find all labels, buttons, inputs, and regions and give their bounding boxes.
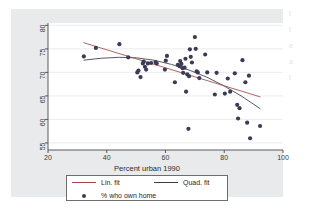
y-axis-tick-label: 80 — [39, 25, 46, 41]
y-axis-tick-label: 70 — [39, 72, 46, 88]
chart-figure-panel: 556065707580 20406080100 Percent urban 1… — [11, 9, 283, 197]
legend-entry-own-home: % who own home — [71, 189, 156, 202]
y-axis-tick-label: 60 — [39, 119, 46, 135]
y-axis-tick-label: 65 — [39, 95, 46, 111]
x-axis-title: Percent urban 1990 — [11, 164, 283, 173]
legend-key-quad-fit — [153, 176, 179, 189]
gridlines — [48, 25, 283, 143]
legend-entry-lin-fit: Lin. fit — [71, 176, 120, 189]
margin-bleed-line: t — [289, 22, 307, 38]
legend-line-swatch-quad-fit — [154, 182, 178, 183]
legend-label-quad-fit: Quad. fit — [179, 179, 209, 186]
legend-label-lin-fit: Lin. fit — [97, 179, 120, 186]
legend-marker-swatch-own-home — [82, 194, 86, 198]
legend-row-fits: Lin. fit Quad. fit — [67, 176, 227, 189]
chart-legend: Lin. fit Quad. fit % who own home — [66, 175, 228, 201]
legend-entry-quad-fit: Quad. fit — [153, 176, 209, 189]
legend-line-swatch-lin-fit — [72, 182, 96, 183]
x-axis-tick-label: 20 — [44, 154, 52, 161]
legend-key-lin-fit — [71, 176, 97, 189]
axis-ticks — [45, 25, 283, 153]
x-axis-tick-label: 60 — [162, 154, 170, 161]
linear-fit-line — [84, 43, 260, 97]
figure-page: 556065707580 20406080100 Percent urban 1… — [0, 0, 309, 211]
legend-label-own-home: % who own home — [97, 192, 156, 199]
y-axis-tick-label: 75 — [39, 48, 46, 64]
x-axis-tick-label: 100 — [277, 154, 289, 161]
legend-row-marker: % who own home — [67, 189, 227, 202]
legend-key-own-home — [71, 189, 97, 202]
margin-bleed-line: t — [289, 70, 307, 86]
margin-bleed-line: t — [289, 6, 307, 22]
axis-lines — [48, 23, 283, 150]
margin-bleed-line: a — [289, 54, 307, 70]
x-axis-tick-label: 80 — [220, 154, 228, 161]
margin-bleed-line: e — [289, 38, 307, 54]
page-margin-bleed-text: tteat — [289, 6, 307, 86]
x-axis-tick-label: 40 — [103, 154, 111, 161]
quadratic-fit-line — [84, 57, 260, 108]
